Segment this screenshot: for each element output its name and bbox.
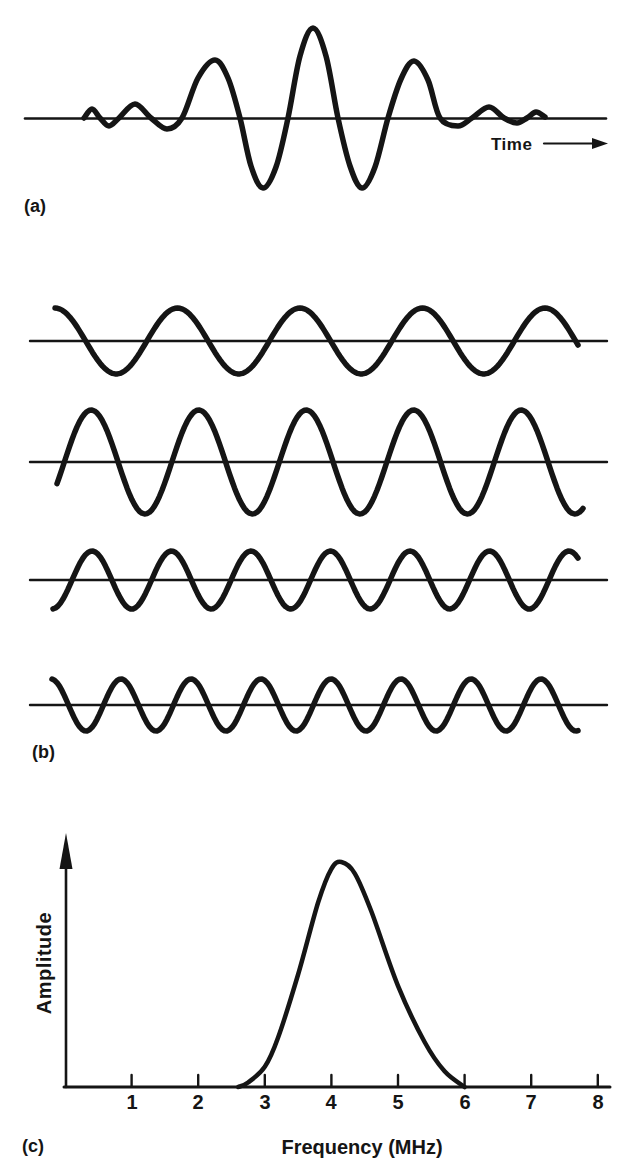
tick-label-6: 6 — [459, 1092, 470, 1112]
time-axis-label: Time — [491, 136, 532, 153]
frequency-axis-label: Frequency (MHz) — [281, 1137, 442, 1157]
amplitude-axis-label: Amplitude — [34, 912, 54, 1014]
panel-c-spectrum-chart — [60, 833, 611, 1087]
tick-label-4: 4 — [325, 1092, 336, 1112]
figure: (a) Time (b) (c) Amplitude Frequency (MH… — [0, 0, 641, 1174]
tick-label-1: 1 — [126, 1092, 137, 1112]
tick-label-3: 3 — [259, 1092, 270, 1112]
tick-label-8: 8 — [592, 1092, 603, 1112]
panel-a-label: (a) — [24, 197, 46, 215]
tick-label-5: 5 — [392, 1092, 403, 1112]
tick-label-2: 2 — [192, 1092, 203, 1112]
figure-canvas — [0, 0, 641, 1174]
panel-b-label: (b) — [32, 743, 55, 761]
tick-label-7: 7 — [525, 1092, 536, 1112]
panel-a-pulse-waveform — [25, 28, 608, 188]
panel-b-sine-waves — [30, 308, 607, 731]
panel-c-label: (c) — [22, 1137, 44, 1155]
